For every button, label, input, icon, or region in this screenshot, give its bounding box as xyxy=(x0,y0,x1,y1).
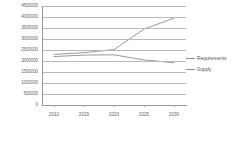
line-chart: 4500000400000035000003000000250000020000… xyxy=(0,0,245,141)
legend-line-icon xyxy=(186,58,195,59)
gridline xyxy=(42,61,186,62)
plot-area xyxy=(42,6,186,105)
legend-label: Supply xyxy=(197,67,211,72)
gridline xyxy=(42,94,186,95)
series-lines xyxy=(42,6,186,105)
y-axis-tick-label: 1500000 xyxy=(21,69,38,74)
y-axis-tick-label: 1000000 xyxy=(21,80,38,85)
y-axis-tick-label: 2500000 xyxy=(21,47,38,52)
legend-item-requirements[interactable]: Requirements xyxy=(186,53,244,64)
y-axis-tick-label: 4500000 xyxy=(21,3,38,8)
x-axis-tick-label: 2025 xyxy=(139,112,149,117)
x-axis-tick-label: 2030 xyxy=(169,112,179,117)
x-axis-tick xyxy=(174,105,175,107)
x-axis-tick-label: 2015 xyxy=(79,112,89,117)
x-axis-tick-label: 2020 xyxy=(109,112,119,117)
gridline xyxy=(42,50,186,51)
y-axis-tick-label: 3500000 xyxy=(21,25,38,30)
x-axis-labels: 20102015202020252030 xyxy=(42,112,187,124)
series-line-requirements xyxy=(54,18,174,54)
y-axis-tick-label: 500000 xyxy=(24,91,38,96)
gridline xyxy=(42,28,186,29)
gridline xyxy=(42,17,186,18)
x-axis-tick xyxy=(54,105,55,107)
y-axis-labels: 4500000400000035000003000000250000020000… xyxy=(0,0,38,111)
y-axis-tick-label: 2000000 xyxy=(21,58,38,63)
gridline xyxy=(42,72,186,73)
x-axis-tick xyxy=(144,105,145,107)
gridline xyxy=(42,83,186,84)
legend: RequirementsSupply xyxy=(186,53,244,75)
gridline xyxy=(42,6,186,7)
y-axis-tick-label: 3000000 xyxy=(21,36,38,41)
y-axis-tick-label: 4000000 xyxy=(21,14,38,19)
legend-line-icon xyxy=(186,69,195,70)
x-axis-tick xyxy=(114,105,115,107)
y-axis-tick-label: 0 xyxy=(36,102,38,107)
x-axis-tick-label: 2010 xyxy=(49,112,59,117)
gridline xyxy=(42,39,186,40)
legend-item-supply[interactable]: Supply xyxy=(186,64,244,75)
x-axis-tick xyxy=(84,105,85,107)
y-axis-line xyxy=(42,6,43,105)
legend-label: Requirements xyxy=(197,56,226,61)
